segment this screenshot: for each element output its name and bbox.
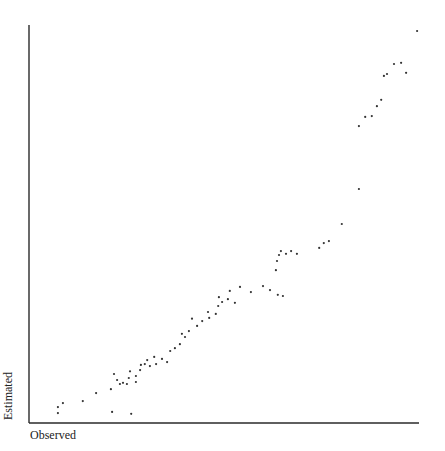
data-point xyxy=(149,365,151,367)
data-point xyxy=(110,388,112,390)
data-point xyxy=(181,333,183,335)
data-point xyxy=(296,253,298,255)
data-point xyxy=(113,373,115,375)
data-point xyxy=(57,412,59,414)
data-point xyxy=(119,383,121,385)
data-point xyxy=(376,105,378,107)
data-point xyxy=(386,73,388,75)
data-point xyxy=(126,383,128,385)
data-point xyxy=(130,413,132,415)
data-point xyxy=(191,318,193,320)
data-point xyxy=(169,350,171,352)
data-point xyxy=(328,240,330,242)
data-point xyxy=(341,223,343,225)
data-point xyxy=(122,382,124,384)
data-point xyxy=(275,269,277,271)
data-point xyxy=(358,188,360,190)
data-point xyxy=(262,285,264,287)
data-points xyxy=(57,30,418,415)
data-point xyxy=(282,295,284,297)
data-point xyxy=(161,358,163,360)
data-point xyxy=(250,291,252,293)
data-point xyxy=(155,363,157,365)
data-point xyxy=(229,290,231,292)
data-point xyxy=(269,289,271,291)
data-point xyxy=(111,411,113,413)
data-point xyxy=(174,347,176,349)
data-point xyxy=(318,247,320,249)
data-point xyxy=(227,298,229,300)
data-point xyxy=(400,62,402,64)
x-axis-label: Observed xyxy=(30,428,76,443)
data-point xyxy=(57,406,59,408)
data-point xyxy=(276,260,278,262)
data-point xyxy=(393,63,395,65)
data-point xyxy=(234,302,236,304)
data-point xyxy=(280,250,282,252)
data-point xyxy=(116,379,118,381)
data-point xyxy=(146,359,148,361)
data-point xyxy=(405,72,407,74)
data-point xyxy=(383,75,385,77)
data-point xyxy=(221,301,223,303)
data-point xyxy=(207,311,209,313)
data-point xyxy=(135,375,137,377)
data-point xyxy=(128,377,130,379)
data-point xyxy=(62,402,64,404)
data-point xyxy=(277,294,279,296)
data-point xyxy=(184,336,186,338)
scatter-plot xyxy=(0,0,445,451)
data-point xyxy=(208,317,210,319)
data-point xyxy=(129,370,131,372)
data-point xyxy=(290,250,292,252)
data-point xyxy=(364,116,366,118)
data-point xyxy=(323,242,325,244)
data-point xyxy=(217,305,219,307)
data-point xyxy=(371,115,373,117)
data-point xyxy=(82,400,84,402)
data-point xyxy=(196,325,198,327)
data-point xyxy=(278,254,280,256)
data-point xyxy=(179,343,181,345)
y-axis-label: Estimated xyxy=(1,372,16,420)
data-point xyxy=(218,296,220,298)
data-point xyxy=(380,99,382,101)
data-point xyxy=(140,364,142,366)
data-point xyxy=(153,356,155,358)
data-point xyxy=(188,330,190,332)
data-point xyxy=(201,320,203,322)
data-point xyxy=(416,30,418,32)
data-point xyxy=(139,369,141,371)
data-point xyxy=(95,392,97,394)
data-point xyxy=(166,361,168,363)
data-point xyxy=(285,253,287,255)
data-point xyxy=(144,363,146,365)
data-point xyxy=(135,381,137,383)
data-point xyxy=(358,125,360,127)
data-point xyxy=(215,313,217,315)
data-point xyxy=(239,286,241,288)
